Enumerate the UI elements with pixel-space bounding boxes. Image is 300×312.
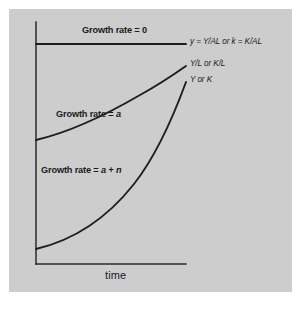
annotation-growth-rate-zero: Growth rate = 0 <box>82 26 147 35</box>
figure-root: Growth rate = 0 Growth rate = a Growth r… <box>0 0 300 312</box>
series-label-per-effective-worker: y = Y/AL or k = K/AL <box>190 38 262 46</box>
x-axis-label: time <box>105 270 126 281</box>
series-label-per-worker: Y/L or K/L <box>190 60 225 68</box>
series-label-total-output: Y or K <box>190 76 212 84</box>
annotation-growth-rate-a-plus-n-variable: a + n <box>101 165 121 175</box>
annotation-growth-rate-a-variable: a <box>116 109 121 119</box>
annotation-growth-rate-a: Growth rate = a <box>56 110 121 119</box>
annotation-growth-rate-a-prefix: Growth rate = <box>56 109 116 119</box>
growth-chart-svg <box>0 0 300 312</box>
annotation-growth-rate-a-plus-n: Growth rate = a + n <box>41 166 121 175</box>
annotation-growth-rate-a-plus-n-prefix: Growth rate = <box>41 165 101 175</box>
series-line-per-worker <box>36 66 186 140</box>
